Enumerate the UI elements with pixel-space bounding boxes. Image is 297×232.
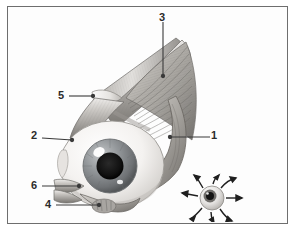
- iris-and-pupil: [83, 139, 137, 193]
- label-3: 3: [159, 12, 165, 23]
- label-5: 5: [58, 90, 64, 101]
- label-1: 1: [211, 130, 217, 141]
- gaze-direction-inset: [182, 175, 242, 223]
- leader-line-5: [69, 94, 95, 97]
- label-2: 2: [31, 130, 37, 141]
- label-4: 4: [45, 199, 51, 210]
- figure-root: 1 2 3 4 5 6: [0, 0, 297, 232]
- label-6: 6: [31, 180, 37, 191]
